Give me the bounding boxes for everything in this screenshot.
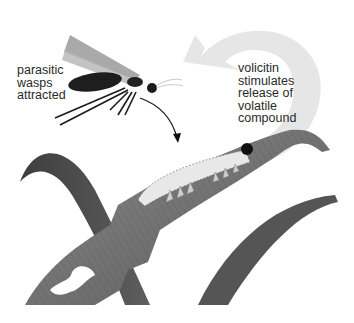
- caterpillar-head: [241, 143, 253, 155]
- label-volicitin: volicitin stimulates release of volatile…: [238, 62, 296, 125]
- attraction-arrow: [140, 98, 181, 143]
- parasitic-wasp: [55, 35, 183, 125]
- leaf-right-lower: [198, 195, 338, 305]
- label-parasitic-wasps: parasitic wasps attracted: [17, 64, 66, 102]
- diagram-scene: [0, 0, 354, 323]
